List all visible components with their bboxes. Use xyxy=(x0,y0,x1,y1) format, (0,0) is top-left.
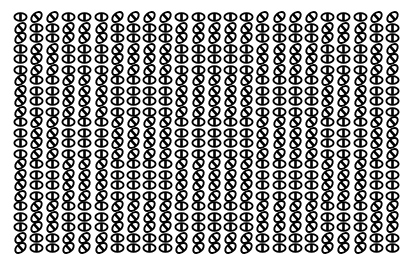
upright-ellipse-glyph xyxy=(272,170,287,180)
tilted-ellipse-glyph xyxy=(223,243,238,253)
upright-ellipse-glyph xyxy=(45,233,60,243)
upright-ellipse-glyph xyxy=(239,138,254,148)
tilted-ellipse-glyph xyxy=(29,12,44,22)
upright-ellipse-glyph xyxy=(223,138,238,148)
tilted-ellipse-glyph xyxy=(110,149,125,159)
tilted-ellipse-glyph xyxy=(288,12,303,22)
upright-ellipse-glyph xyxy=(174,138,189,148)
upright-ellipse-glyph xyxy=(142,86,157,96)
upright-ellipse-glyph xyxy=(353,128,368,138)
upright-ellipse-glyph xyxy=(385,96,400,106)
upright-ellipse-glyph xyxy=(29,170,44,180)
upright-ellipse-glyph xyxy=(174,54,189,64)
tilted-ellipse-glyph xyxy=(207,191,222,201)
upright-ellipse-glyph xyxy=(369,180,384,190)
upright-ellipse-glyph xyxy=(255,233,270,243)
tilted-ellipse-glyph xyxy=(288,222,303,232)
upright-ellipse-glyph xyxy=(29,243,44,253)
tilted-ellipse-glyph xyxy=(304,12,319,22)
upright-ellipse-glyph xyxy=(207,128,222,138)
upright-ellipse-glyph xyxy=(320,128,335,138)
upright-ellipse-glyph xyxy=(288,233,303,243)
upright-ellipse-glyph xyxy=(207,44,222,54)
upright-ellipse-glyph xyxy=(45,96,60,106)
upright-ellipse-glyph xyxy=(45,23,60,33)
upright-ellipse-glyph xyxy=(385,170,400,180)
upright-ellipse-glyph xyxy=(158,233,173,243)
upright-ellipse-glyph xyxy=(369,23,384,33)
upright-ellipse-glyph xyxy=(29,96,44,106)
upright-ellipse-glyph xyxy=(94,44,109,54)
upright-ellipse-glyph xyxy=(223,212,238,222)
tilted-ellipse-glyph xyxy=(45,65,60,75)
tilted-ellipse-glyph xyxy=(174,107,189,117)
upright-ellipse-glyph xyxy=(272,180,287,190)
upright-ellipse-glyph xyxy=(207,138,222,148)
tilted-ellipse-glyph xyxy=(255,12,270,22)
upright-ellipse-glyph xyxy=(320,138,335,148)
upright-ellipse-glyph xyxy=(353,212,368,222)
upright-ellipse-glyph xyxy=(304,170,319,180)
tilted-ellipse-glyph xyxy=(142,65,157,75)
tilted-ellipse-glyph xyxy=(126,149,141,159)
upright-ellipse-glyph xyxy=(288,170,303,180)
upright-ellipse-glyph xyxy=(142,233,157,243)
upright-ellipse-glyph xyxy=(191,44,206,54)
tilted-ellipse-glyph xyxy=(239,191,254,201)
upright-ellipse-glyph xyxy=(174,128,189,138)
tilted-ellipse-glyph xyxy=(272,149,287,159)
upright-ellipse-glyph xyxy=(142,243,157,253)
upright-ellipse-glyph xyxy=(174,44,189,54)
upright-ellipse-glyph xyxy=(29,23,44,33)
upright-ellipse-glyph xyxy=(369,86,384,96)
upright-ellipse-glyph xyxy=(126,170,141,180)
tilted-ellipse-glyph xyxy=(320,191,335,201)
upright-ellipse-glyph xyxy=(369,96,384,106)
tilted-ellipse-glyph xyxy=(61,243,76,253)
tilted-ellipse-glyph xyxy=(369,222,384,232)
tilted-ellipse-glyph xyxy=(272,65,287,75)
tilted-ellipse-glyph xyxy=(255,65,270,75)
upright-ellipse-glyph xyxy=(110,86,125,96)
upright-ellipse-glyph xyxy=(110,180,125,190)
upright-ellipse-glyph xyxy=(29,86,44,96)
upright-ellipse-glyph xyxy=(207,54,222,64)
tilted-ellipse-glyph xyxy=(13,243,28,253)
upright-ellipse-glyph xyxy=(320,212,335,222)
upright-ellipse-glyph xyxy=(126,233,141,243)
glyph-grid xyxy=(12,12,401,254)
upright-ellipse-glyph xyxy=(336,128,351,138)
tilted-ellipse-glyph xyxy=(369,149,384,159)
upright-ellipse-glyph xyxy=(304,96,319,106)
upright-ellipse-glyph xyxy=(385,233,400,243)
tilted-ellipse-glyph xyxy=(77,107,92,117)
tilted-ellipse-glyph xyxy=(353,33,368,43)
tilted-ellipse-glyph xyxy=(304,222,319,232)
upright-ellipse-glyph xyxy=(142,75,157,85)
upright-ellipse-glyph xyxy=(13,128,28,138)
tilted-ellipse-glyph xyxy=(142,222,157,232)
tilted-ellipse-glyph xyxy=(288,65,303,75)
tilted-ellipse-glyph xyxy=(29,149,44,159)
upright-ellipse-glyph xyxy=(336,44,351,54)
tilted-ellipse-glyph xyxy=(320,243,335,253)
upright-ellipse-glyph xyxy=(94,138,109,148)
upright-ellipse-glyph xyxy=(158,23,173,33)
upright-ellipse-glyph xyxy=(77,54,92,64)
upright-ellipse-glyph xyxy=(223,44,238,54)
tilted-ellipse-glyph xyxy=(207,107,222,117)
tilted-ellipse-glyph xyxy=(94,191,109,201)
upright-ellipse-glyph xyxy=(126,180,141,190)
tilted-ellipse-glyph xyxy=(142,149,157,159)
tilted-ellipse-glyph xyxy=(320,33,335,43)
tilted-ellipse-glyph xyxy=(385,65,400,75)
upright-ellipse-glyph xyxy=(255,180,270,190)
upright-ellipse-glyph xyxy=(13,138,28,148)
upright-ellipse-glyph xyxy=(239,117,254,127)
upright-ellipse-glyph xyxy=(336,212,351,222)
tilted-ellipse-glyph xyxy=(94,243,109,253)
tilted-ellipse-glyph xyxy=(29,222,44,232)
upright-ellipse-glyph xyxy=(158,170,173,180)
tilted-ellipse-glyph xyxy=(174,243,189,253)
upright-ellipse-glyph xyxy=(288,86,303,96)
